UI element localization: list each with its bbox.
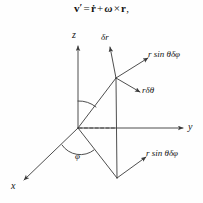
theta-angle-arc [78, 101, 96, 107]
spherical-coordinates-figure: v′=ṙ+ω×r, [0, 0, 203, 203]
r-sin-theta-delta-phi-arrow-upper [116, 58, 148, 78]
delta-r-label: δr [101, 33, 109, 42]
delta-r-arrow [110, 47, 116, 78]
diagram-canvas [0, 0, 203, 203]
x-axis-label: x [11, 181, 15, 191]
r-delta-theta-label: rδθ [142, 86, 154, 95]
phi-angle-label: φ [75, 152, 80, 161]
r-sin-theta-delta-phi-label-lower: r sin θδφ [146, 149, 178, 158]
r-sin-theta-delta-phi-arrow-lower [117, 157, 146, 178]
xy-projection-line [78, 128, 117, 178]
y-axis-label: y [188, 122, 192, 132]
z-axis-label: z [72, 30, 76, 40]
x-axis-line [24, 128, 78, 180]
r-delta-theta-arrow [116, 78, 140, 92]
vertical-projection-line [116, 78, 117, 178]
radius-line [78, 78, 116, 128]
r-sin-theta-delta-phi-label-upper: r sin θδφ [148, 50, 180, 59]
